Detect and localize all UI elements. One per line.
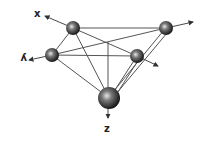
atoms: [45, 21, 173, 109]
bond-bottom-topleft: [73, 28, 109, 98]
atom-top-left: [66, 21, 80, 35]
x-axis-label: x: [34, 8, 41, 19]
bond-bottom-topright-b: [116, 33, 167, 94]
y-axis-label: y: [20, 53, 27, 64]
atom-bottom: [98, 87, 120, 109]
bond-left-rightmiddle: [52, 55, 137, 56]
diagram-canvas: x y z: [0, 0, 208, 146]
z-axis-label: z: [104, 123, 110, 134]
atom-top-right: [159, 21, 173, 35]
atom-left: [45, 48, 59, 62]
atom-right-middle: [130, 49, 144, 63]
